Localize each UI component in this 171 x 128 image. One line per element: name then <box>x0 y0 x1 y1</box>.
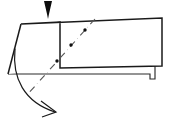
diagram-canvas <box>0 0 171 128</box>
fold-line-dot <box>69 43 72 46</box>
fold-line-dot <box>83 28 86 31</box>
fold-line-dot <box>55 59 58 62</box>
origami-fold-diagram <box>0 0 171 128</box>
